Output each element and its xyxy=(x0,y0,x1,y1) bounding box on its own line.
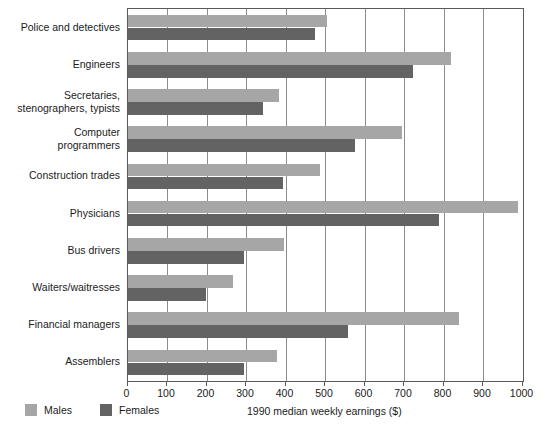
tick-label: 300 xyxy=(236,387,254,399)
tick-mark xyxy=(364,381,365,386)
category-label: Physicians xyxy=(0,206,120,219)
tick-mark xyxy=(285,381,286,386)
category-axis-labels: Police and detectivesEngineersSecretarie… xyxy=(0,8,546,380)
tick-mark xyxy=(166,381,167,386)
tick-mark xyxy=(443,381,444,386)
tick-mark xyxy=(324,381,325,386)
tick-mark xyxy=(245,381,246,386)
chart-legend: MalesFemales xyxy=(25,404,180,416)
tick-label: 500 xyxy=(315,387,333,399)
legend-swatch-icon xyxy=(100,404,112,416)
bar-chart: Police and detectivesEngineersSecretarie… xyxy=(0,0,546,435)
category-label: Police and detectives xyxy=(0,20,120,33)
tick-mark xyxy=(482,381,483,386)
category-label: Computer programmers xyxy=(0,126,120,151)
tick-label: 600 xyxy=(355,387,373,399)
tick-label: 700 xyxy=(394,387,412,399)
tick-label: 100 xyxy=(157,387,175,399)
tick-mark xyxy=(206,381,207,386)
x-axis-title: 1990 median weekly earnings ($) xyxy=(247,405,402,417)
x-axis-ticks: 01002003004005006007008009001000 xyxy=(127,381,522,387)
legend-label: Females xyxy=(119,404,159,416)
tick-mark xyxy=(127,381,128,386)
tick-label: 0 xyxy=(124,387,130,399)
category-label: Waiters/waitresses xyxy=(0,281,120,294)
tick-label: 200 xyxy=(197,387,215,399)
tick-mark xyxy=(522,381,523,386)
tick-label: 1000 xyxy=(510,387,533,399)
category-label: Construction trades xyxy=(0,169,120,182)
category-label: Bus drivers xyxy=(0,244,120,257)
legend-swatch-icon xyxy=(25,404,37,416)
tick-label: 900 xyxy=(473,387,491,399)
category-label: Engineers xyxy=(0,58,120,71)
category-label: Secretaries, stenographers, typists xyxy=(0,89,120,114)
category-label: Financial managers xyxy=(0,318,120,331)
tick-mark xyxy=(403,381,404,386)
legend-item: Females xyxy=(100,404,159,416)
legend-label: Males xyxy=(44,404,72,416)
tick-label: 800 xyxy=(434,387,452,399)
tick-label: 400 xyxy=(276,387,294,399)
category-label: Assemblers xyxy=(0,355,120,368)
legend-item: Males xyxy=(25,404,72,416)
